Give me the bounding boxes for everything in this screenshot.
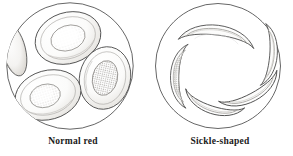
caption-normal-red: Normal red [0, 136, 146, 146]
panel-sickle-shaped: Sickle-shaped [147, 0, 293, 156]
normal-red-illustration [0, 0, 146, 134]
sickle-shaped-illustration [147, 0, 293, 134]
panel-normal-red: Normal red [0, 0, 146, 156]
caption-sickle-shaped: Sickle-shaped [147, 136, 293, 146]
blood-cell-comparison-figure: Normal red [0, 0, 293, 156]
